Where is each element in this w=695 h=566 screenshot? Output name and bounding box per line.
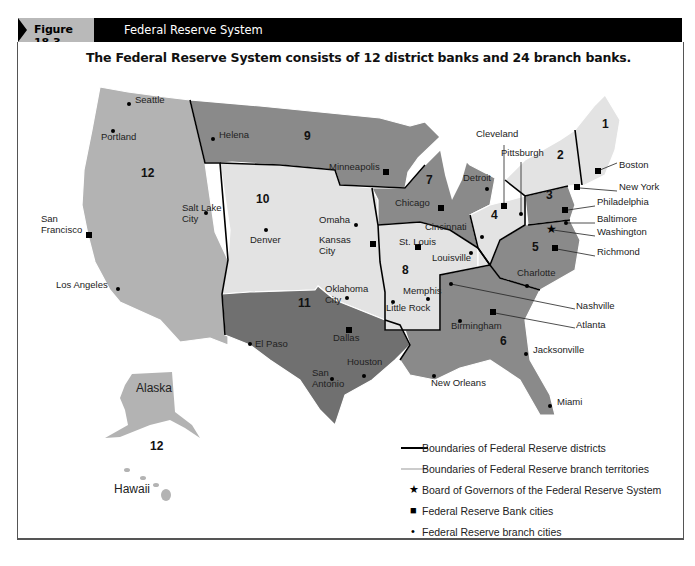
branch-city-label: San Antonio <box>312 367 358 389</box>
branch-city-label: El Paso <box>255 338 288 349</box>
district-number: 12 <box>141 166 154 180</box>
branch-city-label: Portland <box>101 131 136 142</box>
branch-city-label: Salt Lake City <box>182 202 228 224</box>
branch-city-label: Oklahoma City <box>325 283 371 305</box>
branch-city-label: Denver <box>250 234 281 245</box>
bank-city-label: Boston <box>619 159 649 170</box>
branch-marker-icon <box>116 287 120 291</box>
branch-marker-icon <box>564 221 568 225</box>
branch-marker-icon <box>548 404 552 408</box>
legend-label: Boundaries of Federal Reserve branch ter… <box>422 463 649 475</box>
bank-city-label: Dallas <box>333 332 359 343</box>
branch-marker-icon <box>426 297 430 301</box>
district-number: 12 <box>150 439 163 453</box>
branch-city-label: Louisville <box>432 252 471 263</box>
branch-city-label: Birmingham <box>451 320 502 331</box>
branch-marker-icon <box>485 187 489 191</box>
district-number: 9 <box>304 129 311 143</box>
branch-city-label: Cincinnati <box>425 221 467 232</box>
legend-label: Board of Governors of the Federal Reserv… <box>422 484 661 496</box>
branch-marker-icon <box>525 284 529 288</box>
bank-marker-icon <box>562 207 568 213</box>
branch-marker-icon <box>127 102 131 106</box>
branch-marker-icon <box>264 228 268 232</box>
branch-city-label: Charlotte <box>517 267 556 278</box>
bank-marker-icon <box>574 184 580 190</box>
district-number: 2 <box>557 148 564 162</box>
branch-city-label: Houston <box>347 356 382 367</box>
branch-marker-icon <box>524 352 528 356</box>
bank-marker-icon <box>490 309 496 315</box>
star-icon: ★ <box>409 483 419 496</box>
bank-city-label: Philadelphia <box>597 196 647 207</box>
region-label: Alaska <box>136 383 172 394</box>
dot-icon: • <box>411 525 415 537</box>
branch-city-label: Miami <box>557 396 582 407</box>
branch-marker-icon <box>248 342 252 346</box>
bank-marker-icon <box>595 168 601 174</box>
branch-marker-icon <box>211 137 215 141</box>
bank-city-label: Richmond <box>597 246 640 257</box>
bank-city-label: San Francisco <box>41 213 91 235</box>
branch-city-label: Baltimore <box>597 213 637 224</box>
bank-city-label: Chicago <box>395 197 430 208</box>
branch-city-label: Los Angeles <box>56 279 108 290</box>
district-number: 11 <box>298 296 311 310</box>
branch-marker-icon <box>480 235 484 239</box>
bank-marker-icon <box>501 203 507 209</box>
star-icon: ★ <box>546 222 557 236</box>
bank-city-label: Minneapolis <box>329 161 379 172</box>
branch-marker-icon <box>519 212 523 216</box>
district-number: 7 <box>426 173 433 187</box>
district-number: 5 <box>532 240 539 254</box>
branch-marker-icon <box>449 282 453 286</box>
bank-marker-icon <box>370 241 376 247</box>
branch-city-label: Detroit <box>463 172 491 183</box>
region-label: Hawaii <box>114 484 150 495</box>
branch-city-label: Little Rock <box>386 302 432 313</box>
district-number: 8 <box>402 263 409 277</box>
bank-city-label: Cleveland <box>476 128 518 139</box>
district-number: 1 <box>602 117 609 131</box>
legend-label: Federal Reserve branch cities <box>422 526 561 538</box>
branch-city-label: Jacksonville <box>533 344 584 355</box>
legend-label: Federal Reserve Bank cities <box>422 505 553 517</box>
branch-city-label: Pittsburgh <box>501 147 544 158</box>
branch-city-label: Omaha <box>319 214 350 225</box>
branch-city-label: Seattle <box>135 94 165 105</box>
district-number: 6 <box>500 334 507 348</box>
district-2-region <box>505 130 582 196</box>
bank-city-label: St. Louis <box>399 236 436 247</box>
branch-marker-icon <box>362 374 366 378</box>
bank-marker-icon <box>383 169 389 175</box>
district-number: 3 <box>546 188 553 202</box>
bank-marker-icon <box>438 205 444 211</box>
bank-city-label: Kansas City <box>319 234 369 256</box>
board-city-label: Washington <box>597 226 647 237</box>
branch-city-label: New Orleans <box>431 377 486 388</box>
branch-city-label: Helena <box>219 129 249 140</box>
branch-city-label: Memphis <box>403 285 442 296</box>
branch-marker-icon <box>354 223 358 227</box>
branch-city-label: Nashville <box>576 300 615 311</box>
district-number: 4 <box>491 208 498 222</box>
bank-city-label: Atlanta <box>576 319 606 330</box>
legend-label: Boundaries of Federal Reserve districts <box>422 442 606 454</box>
bank-marker-icon <box>552 245 558 251</box>
district-number: 10 <box>256 192 269 206</box>
bank-city-label: New York <box>619 181 659 192</box>
square-icon: ■ <box>410 504 417 516</box>
